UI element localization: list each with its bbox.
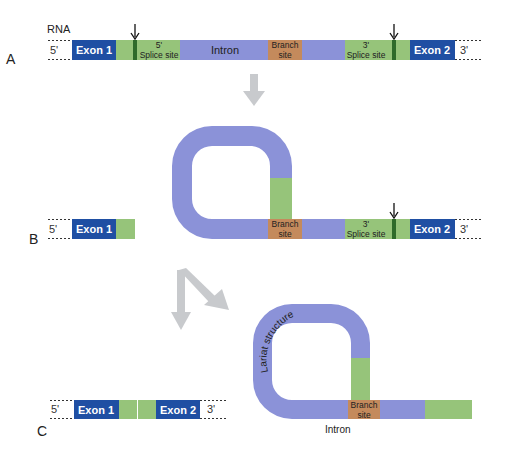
cleavage-arrow-3prime-icon xyxy=(390,203,398,218)
intron-label: Intron xyxy=(211,44,239,56)
panel-label-b: B xyxy=(29,231,38,247)
cleavage-arrow-5prime-icon xyxy=(131,24,139,39)
three-prime-label: 3' xyxy=(460,44,468,56)
five-prime-cleavage-mark xyxy=(133,40,137,60)
intron-segment xyxy=(302,219,345,239)
panel-label-a: A xyxy=(6,51,16,67)
three-prime-label: 3' xyxy=(207,403,215,415)
branch-label-1: Branch xyxy=(351,400,378,410)
exon-1-label: Exon 1 xyxy=(78,404,114,416)
intron-segment xyxy=(302,40,345,60)
intron-label: Intron xyxy=(325,424,351,435)
three-prime-label: 3' xyxy=(460,223,468,235)
branch-label-1: Branch xyxy=(272,219,299,229)
five-prime-label: 5' xyxy=(51,403,59,415)
splice3-label-1: 3' xyxy=(363,40,370,50)
three-prime-cleavage-mark xyxy=(392,40,396,60)
splice-junction-left xyxy=(119,400,137,419)
branch-label-2: site xyxy=(357,410,371,420)
splice3-label-2: Splice site xyxy=(347,229,386,239)
three-prime-splice-tail xyxy=(425,400,472,419)
exon-2-label: Exon 2 xyxy=(160,404,196,416)
panel-c: C 5' Exon 1 Exon 2 3' Branch site Lariat… xyxy=(37,304,472,439)
branch-label-1: Branch xyxy=(272,40,299,50)
exon-1-label: Exon 1 xyxy=(76,44,112,56)
panel-a: A RNA 5' Exon 1 5' Splice site Intron Br… xyxy=(6,23,482,67)
process-arrow-down-icon xyxy=(243,74,265,106)
intron-tail xyxy=(380,400,425,419)
cleavage-arrow-3prime-icon xyxy=(390,24,398,39)
process-arrow-split-icon xyxy=(171,268,229,330)
five-prime-label: 5' xyxy=(49,223,57,235)
splice5-label-1: 5' xyxy=(156,40,163,50)
splice3-label-1: 3' xyxy=(363,219,370,229)
exon-2-label: Exon 2 xyxy=(414,223,450,235)
five-prime-label: 5' xyxy=(50,44,58,56)
five-prime-splice-fragment xyxy=(116,219,135,239)
five-prime-splice-attached xyxy=(270,178,292,219)
panel-b: B 5' Exon 1 Branch site 3' Splice site E… xyxy=(29,126,482,247)
rna-label: RNA xyxy=(47,23,71,35)
exon-2-label: Exon 2 xyxy=(414,44,450,56)
splice5-label-2: Splice site xyxy=(140,50,179,60)
splice-junction-right xyxy=(138,400,156,419)
three-prime-cleavage-mark xyxy=(392,219,396,239)
splicing-diagram: A RNA 5' Exon 1 5' Splice site Intron Br… xyxy=(0,0,506,449)
exon-1-label: Exon 1 xyxy=(76,223,112,235)
panel-label-c: C xyxy=(37,423,47,439)
splice3-label-2: Splice site xyxy=(347,50,386,60)
branch-label-2: site xyxy=(278,229,292,239)
lariat-splice-segment xyxy=(351,358,370,400)
branch-label-2: site xyxy=(278,50,292,60)
